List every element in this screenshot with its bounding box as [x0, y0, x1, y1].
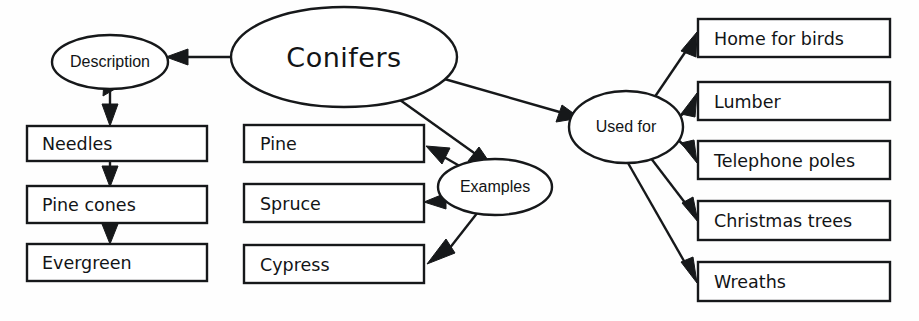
evergreen-label: Evergreen [42, 253, 132, 273]
pine-label: Pine [260, 134, 297, 154]
arrowhead-evergreen [102, 224, 118, 244]
arrowhead-wreaths [681, 257, 697, 283]
node-pine[interactable]: Pine [244, 125, 424, 162]
edge-examples-cypress [449, 212, 478, 249]
node-wreaths[interactable]: Wreaths [698, 262, 890, 301]
christmas-trees-label: Christmas trees [714, 211, 852, 231]
branch-examples: Pine Spruce Cypress Examples [244, 125, 552, 283]
node-lumber[interactable]: Lumber [698, 82, 890, 120]
node-christmas-trees[interactable]: Christmas trees [698, 201, 890, 240]
spruce-label: Spruce [260, 194, 321, 214]
description-label: Description [70, 53, 150, 70]
needles-label: Needles [42, 134, 112, 154]
node-conifers[interactable]: Conifers [231, 7, 457, 107]
used-for-label: Used for [596, 118, 657, 135]
node-home-for-birds[interactable]: Home for birds [698, 19, 890, 57]
node-examples[interactable]: Examples [438, 159, 552, 215]
node-pine-cones[interactable]: Pine cones [27, 186, 207, 223]
arrowhead-pine [426, 146, 450, 164]
pine-cones-label: Pine cones [42, 195, 136, 215]
branch-used-for: Used for Home for birds Lumber Telephone… [569, 19, 890, 301]
node-cypress[interactable]: Cypress [244, 245, 424, 283]
node-description[interactable]: Description [52, 35, 168, 89]
node-used-for[interactable]: Used for [569, 91, 683, 163]
node-needles[interactable]: Needles [27, 126, 207, 161]
home-for-birds-label: Home for birds [714, 29, 844, 49]
edge-usedfor-christmastrees [650, 157, 689, 208]
node-spruce[interactable]: Spruce [244, 184, 424, 222]
cypress-label: Cypress [260, 255, 330, 275]
arrowhead-description [166, 49, 188, 65]
arrowhead-lumber [681, 93, 697, 117]
edge-usedfor-wreaths [628, 163, 688, 268]
node-evergreen[interactable]: Evergreen [27, 244, 207, 281]
arrowhead-telephonepoles [681, 140, 697, 163]
arrowhead-cypress [427, 239, 455, 264]
wreaths-label: Wreaths [714, 272, 786, 292]
arrowhead-needles [102, 104, 118, 126]
lumber-label: Lumber [714, 92, 781, 112]
concept-map-svg: Description Needles Pine cones Evergreen… [0, 0, 919, 321]
edge-conifers-usedfor [441, 78, 563, 113]
telephone-poles-label: Telephone poles [713, 151, 855, 171]
edge-usedfor-homeforbirds [652, 48, 688, 101]
branch-description: Description Needles Pine cones Evergreen [27, 35, 207, 281]
conifers-label: Conifers [286, 42, 401, 73]
arrowhead-pinecones [102, 166, 118, 187]
examples-label: Examples [460, 178, 530, 195]
node-telephone-poles[interactable]: Telephone poles [698, 141, 890, 179]
concept-map-canvas: Description Needles Pine cones Evergreen… [0, 0, 919, 321]
